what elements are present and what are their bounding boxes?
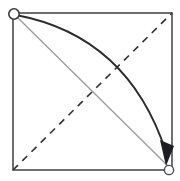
diagram-svg	[0, 0, 180, 181]
vertex-top-left	[9, 9, 19, 19]
diagram-container	[0, 0, 180, 181]
vertex-bottom-right	[164, 165, 173, 174]
